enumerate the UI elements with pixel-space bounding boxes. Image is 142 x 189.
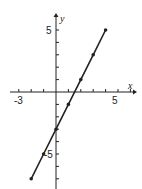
chart: y x -3 5 5 -5 [0, 0, 142, 189]
axes [10, 13, 137, 189]
data-series [29, 28, 107, 180]
data-point [67, 103, 71, 107]
y-tick-label-5: 5 [46, 25, 52, 36]
y-tick-label-neg5: -5 [44, 149, 53, 160]
data-point [79, 78, 83, 82]
x-axis-label: x [127, 80, 133, 91]
x-tick-label-5: 5 [112, 95, 118, 106]
x-axis-arrow-icon [133, 90, 137, 95]
data-point [104, 28, 108, 32]
x-tick-label-neg3: -3 [14, 95, 23, 106]
data-point [54, 127, 58, 131]
data-point [29, 177, 33, 181]
y-axis-label: y [59, 13, 65, 24]
y-axis-arrow-icon [54, 13, 59, 17]
data-point [91, 53, 95, 57]
